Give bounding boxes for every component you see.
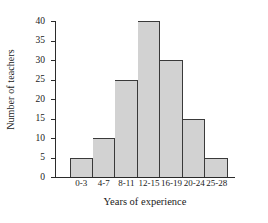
y-axis-title: Number of teachers bbox=[0, 0, 20, 178]
y-axis-tick: 0 bbox=[51, 177, 55, 178]
bar-column bbox=[138, 21, 161, 177]
y-axis-tick-label: 25 bbox=[36, 75, 46, 85]
bars-layer bbox=[70, 21, 228, 177]
histogram-bar bbox=[205, 158, 228, 178]
y-axis-tick: 5 bbox=[51, 158, 55, 159]
y-axis-tick: 25 bbox=[51, 80, 55, 81]
histogram-bar bbox=[183, 119, 206, 178]
y-axis-tick: 15 bbox=[51, 119, 55, 120]
y-axis-tick-label: 20 bbox=[36, 95, 46, 105]
y-axis-tick-label: 40 bbox=[36, 17, 46, 27]
bar-column bbox=[115, 21, 138, 177]
y-axis-line bbox=[55, 21, 56, 178]
histogram-bar bbox=[93, 138, 116, 177]
bar-column bbox=[183, 21, 206, 177]
histogram-bar bbox=[160, 60, 183, 177]
y-axis-tick: 35 bbox=[51, 41, 55, 42]
x-axis-tick-label: 20-24 bbox=[183, 179, 206, 188]
x-axis-tick-label: 25-28 bbox=[205, 179, 228, 188]
histogram-bar bbox=[70, 158, 93, 178]
plot-area: 0510152025303540 0-34-78-1112-1516-1920-… bbox=[55, 21, 235, 178]
histogram-bar bbox=[138, 21, 161, 177]
x-axis-tick-label: 12-15 bbox=[138, 179, 161, 188]
y-axis-tick: 40 bbox=[51, 21, 55, 22]
y-axis-tick-label: 10 bbox=[36, 134, 46, 144]
y-axis-tick: 30 bbox=[51, 60, 55, 61]
y-axis-title-text: Number of teachers bbox=[5, 49, 16, 130]
y-axis-tick-label: 0 bbox=[40, 173, 45, 183]
histogram-figure: Number of teachers 0510152025303540 0-34… bbox=[0, 0, 268, 223]
x-axis-tick-label: 4-7 bbox=[93, 179, 116, 188]
histogram-bar bbox=[115, 80, 138, 178]
x-axis-title: Years of experience bbox=[55, 196, 235, 207]
x-axis-tick-label: 0-3 bbox=[70, 179, 93, 188]
bar-column bbox=[70, 21, 93, 177]
x-axis-tick-label: 8-11 bbox=[115, 179, 138, 188]
y-axis-tick-label: 30 bbox=[36, 56, 46, 66]
y-axis-tick: 20 bbox=[51, 99, 55, 100]
bar-column bbox=[160, 21, 183, 177]
bar-column bbox=[205, 21, 228, 177]
y-axis-tick: 10 bbox=[51, 138, 55, 139]
y-axis-tick-label: 5 bbox=[40, 153, 45, 163]
bar-column bbox=[93, 21, 116, 177]
y-axis-tick-label: 35 bbox=[36, 36, 46, 46]
y-axis-tick-label: 15 bbox=[36, 114, 46, 124]
x-axis-tick-label: 16-19 bbox=[160, 179, 183, 188]
x-axis-tick-labels: 0-34-78-1112-1516-1920-2425-28 bbox=[70, 179, 228, 188]
